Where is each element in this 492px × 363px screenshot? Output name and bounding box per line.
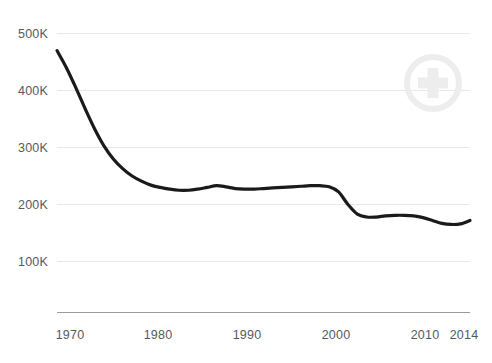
x-tick-label-1970: 1970: [56, 328, 85, 342]
watermark: [407, 57, 459, 109]
y-tick-label-400K: 400K: [18, 84, 48, 98]
x-tick-label-1990: 1990: [233, 328, 262, 342]
plus-glyph-icon: [418, 68, 448, 98]
x-tick-label-1980: 1980: [144, 328, 173, 342]
y-tick-label-100K: 100K: [18, 255, 48, 269]
y-tick-label-500K: 500K: [18, 27, 48, 41]
line-chart: 500K 400K 300K 200K 100K 1970 1980 1990 …: [0, 0, 492, 363]
y-tick-label-200K: 200K: [18, 198, 48, 212]
chart-canvas: 500K 400K 300K 200K 100K 1970 1980 1990 …: [0, 0, 492, 363]
y-tick-label-300K: 300K: [18, 141, 48, 155]
y-axis-tick-labels: 500K 400K 300K 200K 100K: [18, 27, 48, 269]
x-axis-tick-labels: 1970 1980 1990 2000 2010 2014: [56, 328, 479, 342]
x-tick-label-2000: 2000: [322, 328, 351, 342]
gridlines: [57, 34, 470, 262]
x-tick-label-2014: 2014: [450, 328, 479, 342]
x-tick-label-2010: 2010: [411, 328, 440, 342]
